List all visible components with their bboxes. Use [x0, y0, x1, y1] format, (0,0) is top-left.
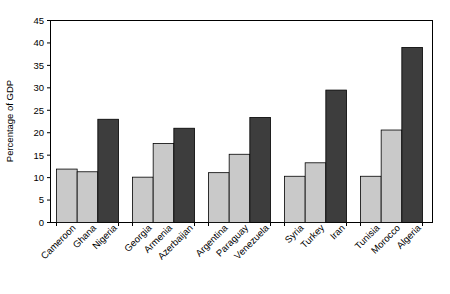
bar-cameroon[interactable] — [57, 169, 78, 222]
bar-argentina[interactable] — [209, 173, 230, 223]
bar-chart: 051015202530354045Percentage of GDPCamer… — [0, 0, 450, 294]
bar-iran[interactable] — [326, 90, 347, 222]
category-label-algeria: Algeria — [394, 222, 423, 251]
y-axis-tick-label: 20 — [33, 127, 44, 138]
y-axis: 051015202530354045 — [33, 15, 50, 228]
category-labels: CameroonGhanaNigeriaGeorgiaArmeniaAzerba… — [38, 222, 423, 262]
bar-algeria[interactable] — [402, 47, 423, 222]
category-label-turkey: Turkey — [298, 222, 326, 250]
y-axis-tick-label: 0 — [39, 217, 44, 228]
y-axis-tick-label: 10 — [33, 172, 44, 183]
bar-venezuela[interactable] — [250, 117, 271, 222]
bar-nigeria[interactable] — [98, 119, 119, 222]
y-axis-title: Percentage of GDP — [4, 80, 15, 162]
y-axis-tick-label: 35 — [33, 60, 44, 71]
y-axis-tick-label: 45 — [33, 15, 44, 26]
y-axis-tick-label: 30 — [33, 82, 44, 93]
y-axis-tick-label: 25 — [33, 105, 44, 116]
bar-armenia[interactable] — [153, 143, 174, 222]
bar-georgia[interactable] — [133, 177, 154, 222]
chart-canvas: 051015202530354045Percentage of GDPCamer… — [0, 0, 450, 294]
y-axis-tick-label: 40 — [33, 37, 44, 48]
y-axis-tick-label: 5 — [39, 194, 44, 205]
bar-morocco[interactable] — [381, 130, 402, 222]
bar-tunisia[interactable] — [361, 176, 382, 222]
y-axis-tick-label: 15 — [33, 150, 44, 161]
bar-syria[interactable] — [285, 176, 306, 222]
category-label-iran: Iran — [328, 222, 347, 241]
bar-paraguay[interactable] — [229, 154, 250, 222]
bar-turkey[interactable] — [305, 163, 326, 223]
bar-ghana[interactable] — [77, 172, 98, 223]
bars-layer — [57, 47, 423, 222]
bar-azerbaijan[interactable] — [174, 128, 195, 222]
